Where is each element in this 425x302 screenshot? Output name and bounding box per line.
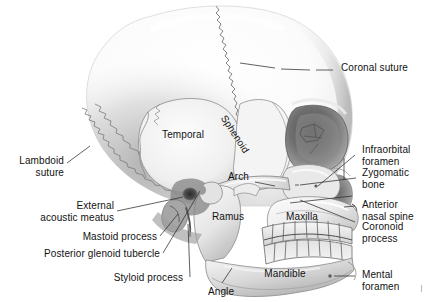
label-lambdoid-suture: Lambdoid suture	[2, 155, 64, 178]
label-styloid-process: Styloid process	[80, 272, 183, 284]
label-temporal: Temporal	[148, 129, 218, 141]
label-coronoid-process: Coronoid process	[362, 221, 403, 244]
label-ramus: Ramus	[200, 211, 256, 223]
label-zygomatic-bone: Zygomatic bone	[362, 167, 409, 190]
leader-lambdoid-suture	[67, 146, 90, 163]
label-mental-foramen: Mental foramen	[362, 269, 399, 292]
lower-teeth-row	[264, 239, 352, 264]
infraorbital-foramen-dot	[314, 184, 317, 187]
label-posterior-glenoid-tubercle: Posterior glenoid tubercle	[2, 248, 160, 260]
mental-foramen-dot	[328, 274, 331, 277]
label-arch: Arch	[228, 171, 249, 183]
label-coronal-suture: Coronal suture	[341, 62, 408, 74]
skull-anatomy-figure: Coronal suture Temporal Sphenoid Arch La…	[0, 0, 425, 302]
label-infraorbital-foramen: Infraorbital foramen	[362, 144, 410, 167]
label-anterior-nasal-spine: Anterior nasal spine	[362, 199, 414, 222]
label-maxilla: Maxilla	[272, 211, 332, 223]
label-angle: Angle	[208, 286, 234, 298]
page-edge-artifact	[421, 285, 422, 292]
label-mandible: Mandible	[250, 268, 320, 280]
label-mastoid-process: Mastoid process	[2, 231, 157, 243]
label-external-acoustic-meatus: External acoustic meatus	[2, 200, 114, 223]
